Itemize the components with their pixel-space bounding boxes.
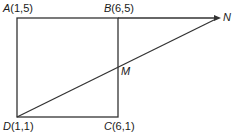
square-abcd [17, 18, 118, 117]
geometry-diagram [0, 0, 236, 134]
label-n: N [223, 12, 231, 23]
label-b: B(6,5) [104, 3, 134, 14]
label-c: C(6,1) [104, 121, 135, 132]
arrow-n-icon [214, 15, 221, 21]
label-d: D(1,1) [3, 121, 34, 132]
label-m: M [121, 66, 130, 77]
label-a: A(1,5) [3, 3, 33, 14]
